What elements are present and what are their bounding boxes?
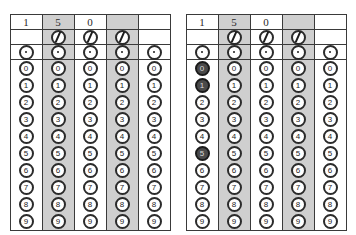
- digit-cell-1[interactable]: 7: [187, 179, 219, 196]
- digit-bubble-8-col-2[interactable]: 8: [227, 197, 242, 212]
- digit-bubble-0-col-2[interactable]: 0: [227, 61, 242, 76]
- written-answer-cell-2[interactable]: 5: [219, 15, 251, 29]
- digit-cell-4[interactable]: 0: [107, 60, 139, 77]
- digit-cell-3[interactable]: 5: [75, 145, 107, 162]
- digit-cell-4[interactable]: 6: [283, 162, 315, 179]
- digit-cell-2[interactable]: 4: [219, 128, 251, 145]
- decimal-point-cell-1[interactable]: [187, 45, 219, 59]
- digit-cell-2[interactable]: 4: [43, 128, 75, 145]
- digit-bubble-0-col-2[interactable]: 0: [51, 61, 66, 76]
- digit-cell-5[interactable]: 5: [139, 145, 170, 162]
- digit-bubble-1-col-4[interactable]: 1: [291, 78, 306, 93]
- written-answer-cell-1[interactable]: 1: [11, 15, 43, 29]
- digit-bubble-5-col-5[interactable]: 5: [147, 146, 162, 161]
- digit-cell-3[interactable]: 5: [251, 145, 283, 162]
- digit-cell-4[interactable]: 1: [107, 77, 139, 94]
- digit-bubble-7-col-5[interactable]: 7: [147, 180, 162, 195]
- digit-bubble-4-col-3[interactable]: 4: [259, 129, 274, 144]
- digit-bubble-9-col-5[interactable]: 9: [323, 214, 338, 229]
- digit-bubble-3-col-2[interactable]: 3: [51, 112, 66, 127]
- digit-cell-4[interactable]: 5: [107, 145, 139, 162]
- digit-cell-3[interactable]: 8: [251, 196, 283, 213]
- digit-cell-2[interactable]: 5: [43, 145, 75, 162]
- digit-cell-2[interactable]: 0: [43, 60, 75, 77]
- digit-cell-3[interactable]: 9: [251, 213, 283, 230]
- digit-bubble-1-col-2[interactable]: 1: [227, 78, 242, 93]
- digit-cell-5[interactable]: 2: [139, 94, 170, 111]
- digit-cell-2[interactable]: 2: [43, 94, 75, 111]
- digit-cell-4[interactable]: 9: [107, 213, 139, 230]
- digit-bubble-0-col-1[interactable]: 0: [19, 61, 34, 76]
- slash-bubble[interactable]: [51, 30, 66, 45]
- digit-bubble-3-col-4[interactable]: 3: [291, 112, 306, 127]
- digit-cell-4[interactable]: 2: [283, 94, 315, 111]
- fraction-slash-cell-1[interactable]: [187, 30, 219, 44]
- fraction-slash-cell-4[interactable]: [283, 30, 315, 44]
- digit-cell-3[interactable]: 7: [251, 179, 283, 196]
- digit-cell-5[interactable]: 4: [315, 128, 346, 145]
- written-answer-cell-4[interactable]: [283, 15, 315, 29]
- written-answer-cell-2[interactable]: 5: [43, 15, 75, 29]
- digit-cell-4[interactable]: 8: [107, 196, 139, 213]
- digit-bubble-2-col-3[interactable]: 2: [259, 95, 274, 110]
- digit-bubble-6-col-1[interactable]: 6: [19, 163, 34, 178]
- digit-cell-1[interactable]: 7: [11, 179, 43, 196]
- digit-bubble-1-col-2[interactable]: 1: [51, 78, 66, 93]
- fraction-slash-cell-5[interactable]: [139, 30, 170, 44]
- digit-bubble-5-col-5[interactable]: 5: [323, 146, 338, 161]
- digit-bubble-2-col-2[interactable]: 2: [51, 95, 66, 110]
- digit-cell-2[interactable]: 7: [219, 179, 251, 196]
- decimal-point-bubble[interactable]: [195, 45, 210, 60]
- decimal-point-bubble[interactable]: [83, 45, 98, 60]
- digit-cell-4[interactable]: 9: [283, 213, 315, 230]
- digit-cell-1[interactable]: 4: [11, 128, 43, 145]
- digit-cell-1[interactable]: 3: [11, 111, 43, 128]
- digit-cell-3[interactable]: 7: [75, 179, 107, 196]
- digit-bubble-7-col-3[interactable]: 7: [83, 180, 98, 195]
- digit-bubble-8-col-4[interactable]: 8: [115, 197, 130, 212]
- digit-bubble-0-col-4[interactable]: 0: [115, 61, 130, 76]
- digit-bubble-5-col-3[interactable]: 5: [83, 146, 98, 161]
- digit-bubble-8-col-2[interactable]: 8: [51, 197, 66, 212]
- digit-cell-4[interactable]: 3: [107, 111, 139, 128]
- digit-bubble-2-col-5[interactable]: 2: [323, 95, 338, 110]
- digit-bubble-9-col-2[interactable]: 9: [51, 214, 66, 229]
- digit-cell-5[interactable]: 1: [315, 77, 346, 94]
- digit-cell-4[interactable]: 4: [107, 128, 139, 145]
- decimal-point-bubble[interactable]: [19, 45, 34, 60]
- digit-bubble-8-col-1[interactable]: 8: [19, 197, 34, 212]
- slash-bubble[interactable]: [83, 30, 98, 45]
- digit-bubble-6-col-2[interactable]: 6: [227, 163, 242, 178]
- digit-bubble-2-col-4[interactable]: 2: [115, 95, 130, 110]
- decimal-point-cell-5[interactable]: [315, 45, 346, 59]
- decimal-point-cell-5[interactable]: [139, 45, 170, 59]
- digit-bubble-5-col-4[interactable]: 5: [291, 146, 306, 161]
- fraction-slash-cell-2[interactable]: [219, 30, 251, 44]
- digit-bubble-0-col-3[interactable]: 0: [259, 61, 274, 76]
- fraction-slash-cell-4[interactable]: [107, 30, 139, 44]
- digit-cell-1[interactable]: 1: [11, 77, 43, 94]
- digit-bubble-9-col-3[interactable]: 9: [259, 214, 274, 229]
- digit-cell-5[interactable]: 6: [139, 162, 170, 179]
- digit-bubble-4-col-3[interactable]: 4: [83, 129, 98, 144]
- digit-bubble-6-col-2[interactable]: 6: [51, 163, 66, 178]
- decimal-point-bubble[interactable]: [323, 45, 338, 60]
- decimal-point-cell-3[interactable]: [251, 45, 283, 59]
- decimal-point-cell-4[interactable]: [107, 45, 139, 59]
- digit-bubble-1-col-3[interactable]: 1: [259, 78, 274, 93]
- digit-cell-1[interactable]: 5: [11, 145, 43, 162]
- decimal-point-cell-2[interactable]: [43, 45, 75, 59]
- digit-cell-2[interactable]: 1: [219, 77, 251, 94]
- digit-cell-1[interactable]: 2: [187, 94, 219, 111]
- fraction-slash-cell-5[interactable]: [315, 30, 346, 44]
- digit-bubble-2-col-3[interactable]: 2: [83, 95, 98, 110]
- fraction-slash-cell-2[interactable]: [43, 30, 75, 44]
- digit-bubble-8-col-4[interactable]: 8: [291, 197, 306, 212]
- digit-bubble-5-col-1[interactable]: 5: [195, 146, 210, 161]
- slash-bubble[interactable]: [227, 30, 242, 45]
- fraction-slash-cell-3[interactable]: [251, 30, 283, 44]
- digit-bubble-2-col-1[interactable]: 2: [195, 95, 210, 110]
- digit-bubble-9-col-5[interactable]: 9: [147, 214, 162, 229]
- fraction-slash-cell-1[interactable]: [11, 30, 43, 44]
- digit-cell-4[interactable]: 6: [107, 162, 139, 179]
